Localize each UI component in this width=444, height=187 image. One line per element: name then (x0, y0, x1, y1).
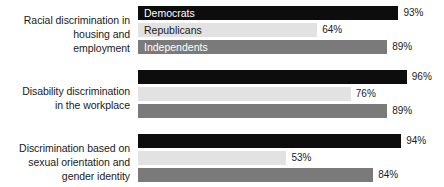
bar-value-label: 93% (403, 6, 423, 20)
category-label-line: Discrimination based on (0, 141, 130, 155)
bar-row: Democrats93% (138, 6, 444, 20)
category-label: Disability discriminationin the workplac… (0, 84, 130, 112)
bar-row: 84% (138, 168, 444, 182)
bar-democrats: Democrats (138, 6, 398, 20)
bar-stack: 94%53%84% (138, 134, 444, 185)
bar-value-label: 84% (378, 168, 398, 182)
legend-item-republicans: Republicans (144, 23, 202, 37)
bar-row: Republicans64% (138, 23, 444, 37)
bar-row: Independents89% (138, 40, 444, 54)
grouped-horizontal-bar-chart: Racial discrimination inhousing andemplo… (0, 0, 444, 187)
bar-row: 76% (138, 87, 444, 101)
legend-item-democrats: Democrats (144, 6, 195, 20)
category-label-line: Disability discrimination (0, 84, 130, 98)
bar-value-label: 76% (356, 87, 376, 101)
bar-republicans: Republicans (138, 23, 317, 37)
bar-republicans (138, 87, 351, 101)
category-label-line: Racial discrimination in (0, 13, 130, 27)
bar-democrats (138, 134, 401, 148)
category-label-line: employment (0, 41, 130, 55)
bar-value-label: 89% (392, 104, 412, 118)
category-label-line: gender identity (0, 169, 130, 183)
bar-value-label: 64% (322, 23, 342, 37)
bar-independents (138, 168, 373, 182)
legend-item-independents: Independents (144, 40, 208, 54)
bar-independents (138, 104, 387, 118)
bar-row: 89% (138, 104, 444, 118)
category-label-line: sexual orientation and (0, 155, 130, 169)
bar-value-label: 94% (406, 134, 426, 148)
bar-stack: Democrats93%Republicans64%Independents89… (138, 6, 444, 57)
bar-row: 94% (138, 134, 444, 148)
bar-value-label: 96% (412, 70, 432, 84)
bar-row: 53% (138, 151, 444, 165)
bar-stack: 96%76%89% (138, 70, 444, 121)
bar-row: 96% (138, 70, 444, 84)
category-label-line: housing and (0, 27, 130, 41)
category-label: Racial discrimination inhousing andemplo… (0, 13, 130, 56)
bar-republicans (138, 151, 286, 165)
bar-democrats (138, 70, 407, 84)
bar-value-label: 89% (392, 40, 412, 54)
bar-independents: Independents (138, 40, 387, 54)
bar-value-label: 53% (291, 151, 311, 165)
category-label-line: in the workplace (0, 98, 130, 112)
category-label: Discrimination based onsexual orientatio… (0, 141, 130, 184)
